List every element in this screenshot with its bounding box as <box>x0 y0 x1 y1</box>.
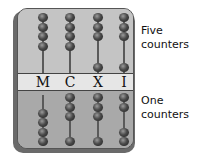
five-counter-bead[interactable] <box>93 13 103 22</box>
five-counter-bead[interactable] <box>119 63 129 72</box>
abacus-frame: M C X I <box>17 8 134 149</box>
five-counter-bead[interactable] <box>119 13 129 22</box>
five-counter-bead[interactable] <box>38 42 48 51</box>
five-counter-bead[interactable] <box>93 63 103 72</box>
five-counter-bead[interactable] <box>65 13 75 22</box>
five-counter-bead[interactable] <box>93 32 103 41</box>
one-counter-bead[interactable] <box>38 137 48 146</box>
one-counter-bead[interactable] <box>119 137 129 146</box>
one-counter-bead[interactable] <box>93 103 103 112</box>
five-counter-bead[interactable] <box>38 32 48 41</box>
five-counter-bead[interactable] <box>65 23 75 32</box>
one-counters-line2: counters <box>141 108 189 122</box>
five-counter-bead[interactable] <box>38 13 48 22</box>
one-counter-bead[interactable] <box>65 137 75 146</box>
five-counter-bead[interactable] <box>38 23 48 32</box>
five-counters-line1: Five <box>141 24 189 38</box>
one-counter-bead[interactable] <box>38 109 48 118</box>
five-counter-bead[interactable] <box>119 23 129 32</box>
one-counters-line1: One <box>141 94 189 108</box>
column-label-c: C <box>60 74 80 91</box>
one-counter-bead[interactable] <box>65 103 75 112</box>
five-counter-bead[interactable] <box>65 42 75 51</box>
five-counter-bead[interactable] <box>93 23 103 32</box>
one-counters-section <box>18 91 133 149</box>
one-counters-label: One counters <box>141 94 189 122</box>
one-counter-bead[interactable] <box>119 93 129 102</box>
place-value-band: M C X I <box>18 73 133 91</box>
one-counter-bead[interactable] <box>119 103 129 112</box>
five-counter-bead[interactable] <box>119 32 129 41</box>
one-counter-bead[interactable] <box>93 93 103 102</box>
column-label-m: M <box>33 74 53 91</box>
one-counter-bead[interactable] <box>119 128 129 137</box>
column-label-i: I <box>114 74 134 91</box>
one-counter-bead[interactable] <box>93 112 103 121</box>
one-counter-bead[interactable] <box>65 93 75 102</box>
five-counters-label: Five counters <box>141 24 189 52</box>
column-label-x: X <box>88 74 108 91</box>
one-counter-bead[interactable] <box>38 118 48 127</box>
one-counter-bead[interactable] <box>93 137 103 146</box>
one-counter-bead[interactable] <box>65 112 75 121</box>
five-counters-line2: counters <box>141 38 189 52</box>
five-counter-bead[interactable] <box>65 32 75 41</box>
one-counter-bead[interactable] <box>38 128 48 137</box>
five-counters-section <box>18 9 133 73</box>
